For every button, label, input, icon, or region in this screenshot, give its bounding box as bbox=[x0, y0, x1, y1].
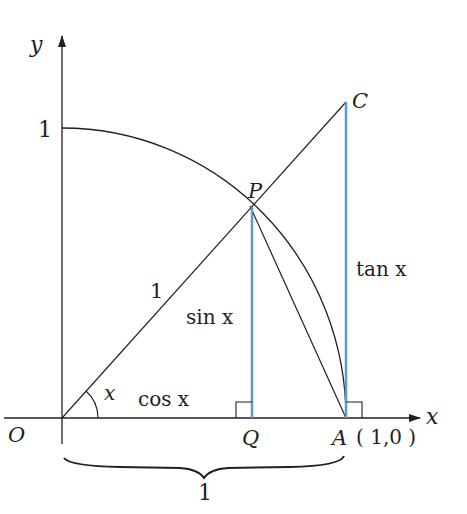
chord-pa bbox=[250, 206, 346, 418]
diagram-canvas: y x 1 O Q A ( 1,0 ) P C 1 sin x cos x ta… bbox=[0, 0, 467, 514]
right-angle-q bbox=[236, 402, 252, 418]
point-o-label: O bbox=[8, 423, 25, 447]
y-tick-1: 1 bbox=[38, 117, 52, 142]
angle-arc bbox=[86, 391, 98, 418]
sin-label: sin x bbox=[186, 305, 234, 329]
cos-label: cos x bbox=[138, 387, 190, 411]
right-angle-a bbox=[346, 402, 362, 418]
point-q-label: Q bbox=[242, 426, 259, 450]
tan-label: tan x bbox=[356, 257, 407, 281]
angle-label: x bbox=[104, 381, 115, 405]
point-c-label: C bbox=[352, 89, 368, 113]
radius-label: 1 bbox=[150, 279, 163, 303]
brace-label: 1 bbox=[198, 480, 212, 505]
y-axis-label: y bbox=[29, 32, 43, 57]
point-a-label: A bbox=[330, 426, 347, 450]
brace bbox=[64, 456, 344, 478]
unit-circle-arc bbox=[62, 128, 346, 418]
point-p-label: P bbox=[247, 179, 263, 203]
line-oc bbox=[62, 102, 346, 418]
point-a-coords: ( 1,0 ) bbox=[356, 425, 416, 449]
unit-circle-diagram: y x 1 O Q A ( 1,0 ) P C 1 sin x cos x ta… bbox=[0, 0, 467, 514]
x-axis-label: x bbox=[426, 404, 439, 429]
